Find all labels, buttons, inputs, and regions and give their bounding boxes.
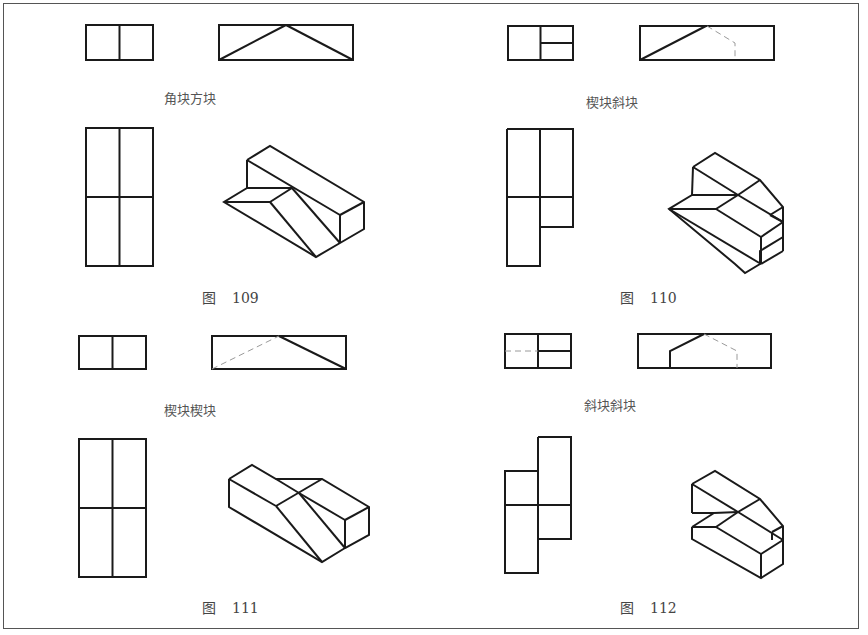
fig110-isometric-view bbox=[669, 153, 783, 273]
fig111-isometric-view bbox=[229, 465, 369, 562]
fig111-top-view bbox=[79, 439, 146, 577]
fig110-top-view bbox=[507, 129, 573, 266]
drawing-canvas bbox=[0, 0, 868, 635]
caption-prefix: 图 bbox=[202, 290, 216, 306]
caption-number: 109 bbox=[232, 290, 259, 306]
caption-number: 110 bbox=[650, 290, 677, 306]
fig110-label: 楔块斜块 bbox=[586, 92, 638, 111]
fig109-side-view bbox=[86, 25, 153, 60]
fig109-top-view bbox=[86, 128, 153, 266]
fig112-top-view bbox=[505, 437, 571, 573]
fig110-side-view bbox=[508, 26, 573, 60]
fig111-caption: 图111 bbox=[202, 597, 259, 617]
fig111-label: 楔块楔块 bbox=[164, 400, 216, 419]
fig109-label: 角块方块 bbox=[164, 88, 216, 107]
figure-112-drawing bbox=[505, 334, 783, 578]
fig109-front-view bbox=[219, 25, 353, 60]
caption-prefix: 图 bbox=[620, 600, 634, 616]
caption-prefix: 图 bbox=[202, 600, 216, 616]
caption-prefix: 图 bbox=[620, 290, 634, 306]
fig112-side-view bbox=[505, 334, 571, 368]
fig110-caption: 图110 bbox=[620, 287, 677, 307]
fig112-isometric-view bbox=[692, 471, 783, 578]
figure-110-drawing bbox=[507, 26, 783, 273]
fig111-side-view bbox=[79, 336, 146, 369]
fig112-front-view bbox=[638, 334, 771, 368]
fig112-label: 斜块斜块 bbox=[584, 395, 636, 414]
fig110-front-view bbox=[640, 26, 774, 60]
fig112-caption: 图112 bbox=[620, 597, 677, 617]
caption-number: 111 bbox=[232, 600, 259, 616]
caption-number: 112 bbox=[650, 600, 677, 616]
fig111-front-view bbox=[212, 336, 346, 369]
figure-109-drawing bbox=[86, 25, 364, 266]
figure-111-drawing bbox=[79, 336, 369, 577]
fig109-isometric-view bbox=[224, 146, 364, 257]
fig109-caption: 图109 bbox=[202, 287, 259, 307]
